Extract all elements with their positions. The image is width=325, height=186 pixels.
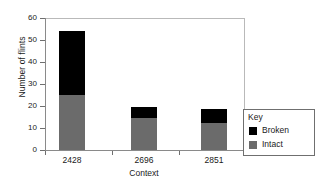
legend-label-intact: Intact bbox=[262, 139, 283, 149]
y-tick-label-50: 50 bbox=[0, 36, 37, 44]
bar-group-2696 bbox=[131, 107, 157, 150]
y-tick-40 bbox=[40, 62, 45, 63]
y-tick-label-40: 40 bbox=[0, 58, 37, 66]
bar-group-2428 bbox=[59, 31, 85, 150]
bar-group-2851 bbox=[201, 109, 227, 150]
y-tick-20 bbox=[40, 106, 45, 107]
x-tick-divider-2 bbox=[179, 151, 180, 155]
y-tick-label-30: 30 bbox=[0, 80, 37, 88]
x-tick-label-2428: 2428 bbox=[42, 155, 102, 165]
y-tick-label-0: 0 bbox=[0, 146, 37, 154]
chart-figure: Number of flints 60 50 40 30 20 10 0 242… bbox=[0, 0, 325, 186]
legend-swatch-broken-icon bbox=[249, 127, 257, 135]
y-tick-10 bbox=[40, 128, 45, 129]
bar-segment-intact-2428 bbox=[59, 95, 85, 150]
bar-segment-broken-2851 bbox=[201, 109, 227, 123]
x-axis-title: Context bbox=[42, 168, 246, 178]
legend-title: Key bbox=[248, 112, 263, 122]
y-tick-30 bbox=[40, 84, 45, 85]
y-tick-50 bbox=[40, 40, 45, 41]
x-tick-label-2851: 2851 bbox=[184, 155, 244, 165]
bar-segment-intact-2851 bbox=[201, 123, 227, 150]
x-tick-divider-1 bbox=[112, 151, 113, 155]
y-tick-label-20: 20 bbox=[0, 102, 37, 110]
legend-box: Key Broken Intact bbox=[243, 109, 315, 156]
y-tick-label-10: 10 bbox=[0, 124, 37, 132]
bar-segment-broken-2428 bbox=[59, 31, 85, 95]
y-tick-label-60: 60 bbox=[0, 14, 37, 22]
y-axis-line bbox=[45, 18, 46, 151]
bar-segment-intact-2696 bbox=[131, 118, 157, 150]
legend-label-broken: Broken bbox=[262, 125, 289, 135]
bar-segment-broken-2696 bbox=[131, 107, 157, 118]
x-tick-label-2696: 2696 bbox=[114, 155, 174, 165]
x-axis-line bbox=[45, 150, 246, 151]
y-tick-60 bbox=[40, 18, 45, 19]
legend-swatch-intact-icon bbox=[249, 141, 257, 149]
